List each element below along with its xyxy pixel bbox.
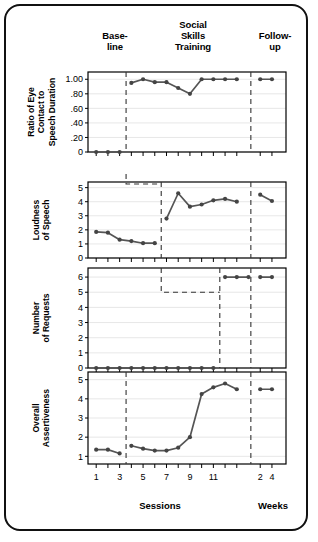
y-tick-label: 1.00 — [65, 74, 83, 84]
data-point — [223, 77, 227, 81]
data-point — [188, 205, 192, 209]
data-line — [96, 232, 155, 243]
y-tick-label: 2 — [78, 225, 83, 235]
y-tick-label: 3 — [78, 318, 83, 328]
data-point — [118, 366, 122, 370]
data-line — [131, 384, 236, 451]
data-point — [258, 193, 262, 197]
data-point — [270, 77, 274, 81]
data-point — [270, 199, 274, 203]
data-point — [141, 366, 145, 370]
y-tick-label: 0 — [78, 363, 83, 373]
multi-panel-chart: 0.20.40.60.801.00Ratio of EyeContact toS… — [0, 0, 318, 542]
panel-eye-contact: 0.20.40.60.801.00Ratio of EyeContact toS… — [26, 72, 287, 157]
data-point — [270, 387, 274, 391]
data-point — [153, 448, 157, 452]
data-point — [129, 444, 133, 448]
data-point — [164, 448, 168, 452]
x-tick-label-session: 5 — [141, 472, 146, 482]
data-point — [106, 231, 110, 235]
data-point — [188, 435, 192, 439]
data-point — [94, 366, 98, 370]
data-point — [129, 239, 133, 243]
data-point — [235, 387, 239, 391]
data-point — [235, 275, 239, 279]
data-point — [94, 150, 98, 154]
y-tick-label: 1 — [78, 452, 83, 462]
data-point — [246, 275, 250, 279]
data-point — [164, 216, 168, 220]
y-axis-title-line: Number — [31, 301, 41, 334]
data-point — [106, 150, 110, 154]
panel-assertiveness: 12345OverallAssertiveness — [31, 372, 286, 468]
x-axis-title-sessions: Sessions — [120, 500, 200, 511]
y-tick-label: .20 — [70, 133, 83, 143]
x-tick-label-week: 2 — [258, 472, 263, 482]
x-tick-label-session: 9 — [187, 472, 192, 482]
data-point — [270, 275, 274, 279]
y-tick-label: 3 — [78, 413, 83, 423]
data-point — [94, 230, 98, 234]
data-point — [164, 80, 168, 84]
y-axis-title-line: Ratio of Eye — [26, 87, 36, 137]
y-tick-label: 4 — [78, 197, 83, 207]
y-tick-label: .40 — [70, 118, 83, 128]
data-point — [106, 366, 110, 370]
y-axis-title-line: Overall — [31, 403, 41, 432]
figure-container: Base- line Social Skills Training Follow… — [0, 0, 318, 542]
x-axis-title-weeks: Weeks — [248, 500, 298, 511]
data-point — [153, 366, 157, 370]
data-point — [118, 451, 122, 455]
data-point — [141, 241, 145, 245]
data-point — [164, 366, 168, 370]
panel-loudness: 012345Loudnessof Speech — [31, 174, 286, 263]
y-axis-title-line: Loudness — [31, 199, 41, 240]
y-tick-label: 1 — [78, 239, 83, 249]
data-point — [258, 77, 262, 81]
x-tick-label-week: 4 — [269, 472, 274, 482]
step-connector-path — [161, 268, 220, 292]
data-point — [141, 77, 145, 81]
data-point — [153, 241, 157, 245]
data-point — [129, 366, 133, 370]
data-point — [200, 202, 204, 206]
y-tick-label: 0 — [78, 147, 83, 157]
plot-frame — [88, 72, 286, 152]
data-point — [118, 150, 122, 154]
y-tick-label: 5 — [78, 183, 83, 193]
y-tick-label: 5 — [78, 287, 83, 297]
y-tick-label: 0 — [78, 253, 83, 263]
data-point — [200, 366, 204, 370]
data-point — [211, 366, 215, 370]
data-point — [176, 191, 180, 195]
y-tick-label: 3 — [78, 211, 83, 221]
y-tick-label: 4 — [78, 303, 83, 313]
data-point — [235, 200, 239, 204]
data-line — [131, 79, 236, 94]
plot-frame — [88, 182, 286, 258]
y-tick-label: 2 — [78, 432, 83, 442]
y-tick-label: 4 — [78, 394, 83, 404]
data-point — [211, 198, 215, 202]
y-tick-label: .80 — [70, 89, 83, 99]
data-point — [176, 366, 180, 370]
data-point — [188, 92, 192, 96]
data-point — [223, 381, 227, 385]
y-axis-title-line: of Requests — [41, 293, 51, 342]
data-point — [235, 77, 239, 81]
x-tick-label-session: 3 — [117, 472, 122, 482]
x-tick-label-session: 7 — [164, 472, 169, 482]
data-point — [129, 81, 133, 85]
data-point — [188, 366, 192, 370]
data-point — [106, 448, 110, 452]
y-axis-title-line: Assertiveness — [41, 389, 51, 448]
data-point — [223, 197, 227, 201]
data-point — [176, 446, 180, 450]
y-tick-label: 6 — [78, 272, 83, 282]
data-point — [258, 387, 262, 391]
data-point — [94, 448, 98, 452]
y-axis-title-line: of Speech — [41, 199, 51, 240]
data-point — [211, 77, 215, 81]
y-tick-label: 2 — [78, 333, 83, 343]
data-point — [141, 447, 145, 451]
